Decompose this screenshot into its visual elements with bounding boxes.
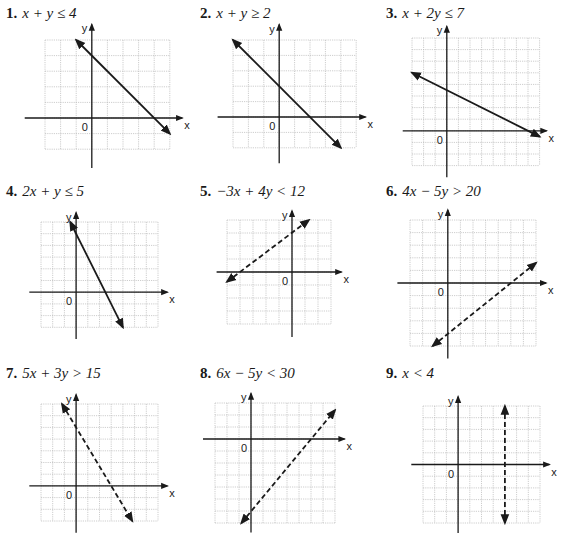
coordinate-graph: xy0: [0, 0, 568, 533]
y-axis-label: y: [448, 395, 454, 407]
origin-label: 0: [448, 468, 454, 480]
x-axis-label: x: [551, 466, 557, 478]
